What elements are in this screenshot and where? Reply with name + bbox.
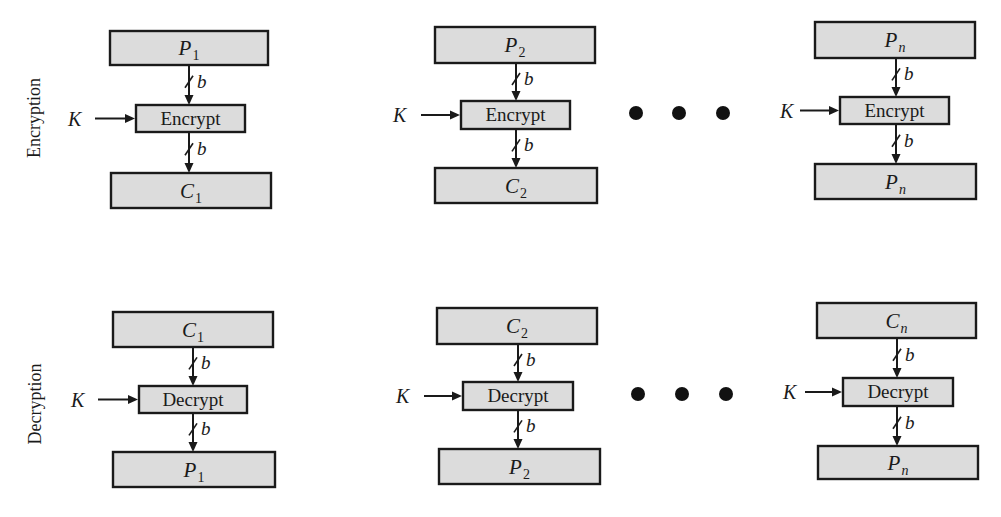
arrowhead-down-icon xyxy=(512,91,521,101)
output-block: C1 xyxy=(111,173,271,208)
output-block: P2 xyxy=(439,449,600,484)
arrowhead-right-icon xyxy=(128,395,138,404)
output-block-subscript: n xyxy=(901,463,908,478)
encryption-row: EncryptionP1EncryptC1bbKP2EncryptC2bbKPn… xyxy=(24,22,976,208)
op-to-output-arrow: b xyxy=(514,410,536,449)
bit-width-label: b xyxy=(524,68,534,89)
row-label: Encryption xyxy=(24,78,44,158)
input-block: C1 xyxy=(113,312,273,347)
bit-width-label: b xyxy=(526,349,536,370)
encrypt-function-box-label: Encrypt xyxy=(864,100,925,121)
output-block-var: C xyxy=(180,179,195,203)
bit-width-label: b xyxy=(201,352,211,373)
arrowhead-right-icon xyxy=(832,388,842,397)
decryption-row-block-3: CnDecryptPnbbK xyxy=(782,303,978,479)
key-label: K xyxy=(782,381,798,403)
encryption-row-block-3: PnEncryptPnbbK xyxy=(779,22,976,199)
input-block-subscript: 1 xyxy=(192,48,199,63)
arrowhead-down-icon xyxy=(892,154,901,164)
input-block-subscript: 2 xyxy=(518,45,525,60)
input-block-subscript: n xyxy=(901,321,908,336)
input-block-var: P xyxy=(178,36,192,60)
key-label: K xyxy=(70,389,86,411)
input-to-op-arrow: b xyxy=(893,338,915,378)
ellipsis-dot-icon xyxy=(629,106,643,120)
output-block: Pn xyxy=(815,164,976,199)
input-block-var: C xyxy=(885,309,900,333)
bit-width-label: b xyxy=(904,63,914,84)
key-label: K xyxy=(392,104,408,126)
op-to-output-arrow: b xyxy=(189,413,211,452)
output-block-subscript: n xyxy=(899,182,906,197)
ellipsis-dots xyxy=(631,387,733,401)
output-block-subscript: 1 xyxy=(197,470,204,485)
op-to-output-arrow: b xyxy=(893,406,915,446)
bit-width-label: b xyxy=(905,344,915,365)
input-block-subscript: n xyxy=(898,40,905,55)
input-block: Pn xyxy=(815,22,975,58)
key-input-arrow: K xyxy=(70,389,138,411)
encrypt-function-box: Encrypt xyxy=(840,97,949,124)
bit-width-label: b xyxy=(197,71,207,92)
input-block-var: C xyxy=(506,314,521,338)
decryption-row: DecryptionC1DecryptP1bbKC2DecryptP2bbKCn… xyxy=(25,303,978,487)
encryption-row-block-1: P1EncryptC1bbK xyxy=(67,31,271,208)
key-input-arrow: K xyxy=(395,385,462,407)
ellipsis-dot-icon xyxy=(719,387,733,401)
input-to-op-arrow: b xyxy=(892,58,914,97)
op-to-output-arrow: b xyxy=(185,132,207,173)
key-label: K xyxy=(779,100,795,122)
arrowhead-down-icon xyxy=(189,376,198,386)
arrowhead-down-icon xyxy=(512,158,521,168)
input-to-op-arrow: b xyxy=(512,63,534,101)
decrypt-function-box-label: Decrypt xyxy=(162,389,224,410)
arrowhead-right-icon xyxy=(829,106,839,115)
arrowhead-right-icon xyxy=(452,392,462,401)
input-block: P1 xyxy=(110,31,268,65)
arrowhead-down-icon xyxy=(514,372,523,382)
decryption-row-block-2: C2DecryptP2bbK xyxy=(395,308,600,484)
row-label: Decryption xyxy=(25,364,45,445)
encrypt-function-box: Encrypt xyxy=(136,105,245,132)
decrypt-function-box: Decrypt xyxy=(843,378,953,406)
arrowhead-right-icon xyxy=(125,114,135,123)
input-to-op-arrow: b xyxy=(514,344,536,382)
key-label: K xyxy=(67,108,83,130)
decrypt-function-box-label: Decrypt xyxy=(487,385,549,406)
bit-width-label: b xyxy=(201,418,211,439)
decryption-row-block-1: C1DecryptP1bbK xyxy=(70,312,275,487)
output-block-var: P xyxy=(887,451,901,475)
output-block-subscript: 2 xyxy=(523,467,530,482)
input-block: C2 xyxy=(437,308,597,344)
key-input-arrow: K xyxy=(782,381,842,403)
input-block-var: P xyxy=(504,33,518,57)
decrypt-function-box-label: Decrypt xyxy=(867,381,929,402)
arrowhead-down-icon xyxy=(189,442,198,452)
key-input-arrow: K xyxy=(779,100,839,122)
arrowhead-down-icon xyxy=(893,436,902,446)
ellipsis-dot-icon xyxy=(716,106,730,120)
ellipsis-dot-icon xyxy=(675,387,689,401)
input-to-op-arrow: b xyxy=(189,347,211,386)
bit-width-label: b xyxy=(526,415,536,436)
input-block-var: C xyxy=(182,318,197,342)
encrypt-function-box-label: Encrypt xyxy=(485,104,546,125)
bit-width-label: b xyxy=(524,134,534,155)
input-block: Cn xyxy=(817,303,976,338)
bit-width-label: b xyxy=(904,130,914,151)
key-label: K xyxy=(395,385,411,407)
op-to-output-arrow: b xyxy=(892,124,914,164)
diagram-root: EncryptionP1EncryptC1bbKP2EncryptC2bbKPn… xyxy=(24,22,978,487)
arrowhead-down-icon xyxy=(185,163,194,173)
input-to-op-arrow: b xyxy=(185,65,207,105)
decrypt-function-box: Decrypt xyxy=(139,386,247,413)
output-block: C2 xyxy=(435,168,597,203)
input-block-subscript: 1 xyxy=(197,330,204,345)
arrowhead-down-icon xyxy=(185,95,194,105)
input-block: P2 xyxy=(435,27,595,63)
arrowhead-down-icon xyxy=(514,439,523,449)
ellipsis-dot-icon xyxy=(631,387,645,401)
bit-width-label: b xyxy=(197,138,207,159)
output-block-subscript: 1 xyxy=(195,191,202,206)
output-block-var: C xyxy=(505,174,520,198)
